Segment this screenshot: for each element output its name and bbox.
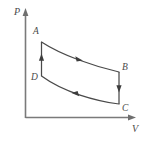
pv-diagram-figure: P V A B C D bbox=[0, 0, 151, 141]
volume-axis-label: V bbox=[132, 124, 138, 134]
curve-c-to-d bbox=[42, 76, 120, 104]
pressure-axis-arrowhead bbox=[23, 8, 29, 16]
state-point-label-a: A bbox=[33, 27, 39, 37]
pv-diagram-canvas bbox=[0, 0, 151, 141]
direction-arrow-d-to-a bbox=[39, 54, 44, 61]
volume-axis-arrowhead bbox=[128, 115, 136, 121]
state-point-label-b: B bbox=[122, 63, 128, 73]
state-point-label-d: D bbox=[31, 73, 38, 83]
direction-arrow-b-to-c bbox=[116, 85, 121, 92]
pressure-axis-label: P bbox=[14, 7, 20, 17]
curve-a-to-b bbox=[42, 42, 120, 72]
state-point-label-c: C bbox=[122, 104, 128, 114]
